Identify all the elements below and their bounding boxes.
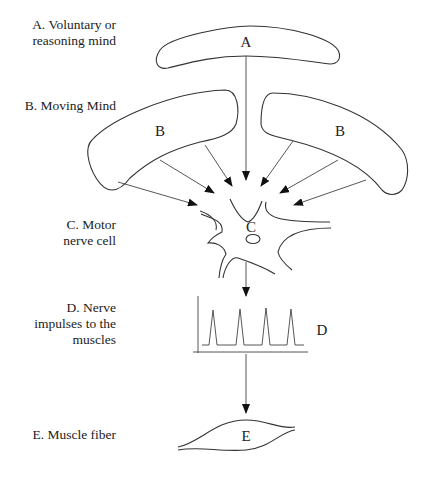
shape-moving-mind-right: B: [261, 93, 408, 195]
arrow-bl1-to-c: [205, 145, 232, 186]
shape-letter-c: C: [246, 219, 256, 235]
shape-moving-mind-left: B: [88, 90, 238, 190]
shape-motor-nerve-cell: C: [200, 199, 331, 278]
arrow-bl3-to-c: [118, 182, 197, 205]
shape-letter-b-right: B: [335, 123, 345, 139]
shape-letter-a: A: [241, 34, 252, 50]
diagram-canvas: A B B C D: [0, 0, 430, 478]
shape-letter-b-left: B: [155, 123, 165, 139]
shape-muscle-fiber: E: [178, 420, 295, 450]
arrow-bl2-to-c: [160, 160, 214, 193]
arrow-br3-to-c: [294, 180, 366, 205]
impulse-spikes: [202, 308, 304, 345]
shape-letter-d: D: [317, 322, 328, 338]
arrow-br2-to-c: [280, 160, 338, 193]
impulse-chart: D: [193, 296, 328, 353]
shape-letter-e: E: [241, 428, 250, 444]
arrow-br1-to-c: [261, 141, 293, 186]
shape-voluntary-mind: A: [156, 26, 339, 68]
arrows: [118, 56, 366, 413]
